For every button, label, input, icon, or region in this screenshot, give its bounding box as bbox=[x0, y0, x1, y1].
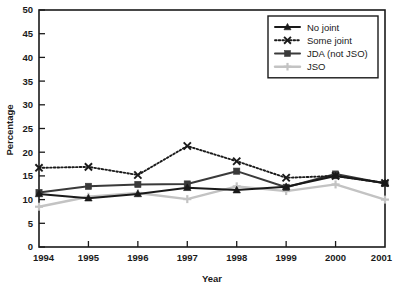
y-tick-label: 10 bbox=[22, 194, 33, 205]
legend-label: JSO bbox=[307, 61, 325, 72]
chart-figure: 05101520253035404550 1994199519961997199… bbox=[0, 0, 399, 288]
legend-label: Some joint bbox=[307, 35, 352, 46]
y-axis-title: Percentage bbox=[4, 104, 15, 155]
y-tick-label: 25 bbox=[22, 123, 33, 134]
x-tick-label: 1998 bbox=[226, 252, 247, 263]
y-tick-label: 30 bbox=[22, 99, 33, 110]
x-tick-label: 2000 bbox=[325, 252, 346, 263]
data-point-square-marker bbox=[135, 181, 141, 187]
x-axis-title: Year bbox=[202, 273, 222, 284]
data-point-square-marker bbox=[234, 168, 240, 174]
y-tick-label: 5 bbox=[28, 218, 34, 229]
data-point-square-marker bbox=[85, 183, 91, 189]
line-chart: 05101520253035404550 1994199519961997199… bbox=[0, 0, 399, 288]
y-tick-label: 0 bbox=[28, 241, 33, 252]
data-point-square-marker bbox=[285, 51, 291, 57]
legend-label: No joint bbox=[307, 22, 340, 33]
x-tick-label: 1994 bbox=[33, 252, 55, 263]
x-tick-label: 2001 bbox=[371, 252, 393, 263]
chart-legend: No jointSome jointJDA (not JSO)JSO bbox=[268, 16, 378, 78]
y-tick-label: 45 bbox=[22, 28, 33, 39]
y-tick-label: 50 bbox=[22, 4, 33, 15]
x-tick-label: 1997 bbox=[177, 252, 198, 263]
y-tick-label: 40 bbox=[22, 52, 33, 63]
x-tick-label: 1996 bbox=[127, 252, 148, 263]
x-tick-label: 1999 bbox=[276, 252, 297, 263]
y-tick-label: 35 bbox=[22, 76, 33, 87]
y-tick-label: 20 bbox=[22, 147, 33, 158]
y-tick-label: 15 bbox=[22, 170, 33, 181]
x-tick-label: 1995 bbox=[78, 252, 100, 263]
legend-label: JDA (not JSO) bbox=[307, 48, 368, 59]
